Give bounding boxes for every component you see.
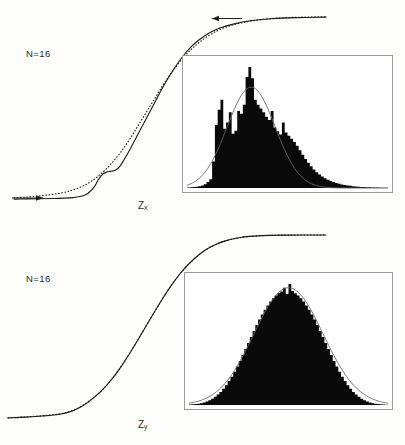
x-axis-label-zx: Zx — [138, 200, 148, 211]
inset-histogram-box-zx — [182, 55, 393, 193]
x-axis-label-subscript-zx: x — [144, 204, 148, 211]
histogram-zx — [183, 56, 392, 192]
sample-size-label-zx: N=16 — [26, 48, 51, 59]
x-axis-label-subscript-zy: y — [144, 423, 148, 430]
left-asymptote-arrow-icon — [12, 195, 43, 201]
figure-root: N=16 Zx N=16 Zy — [0, 0, 405, 445]
histogram-zy — [185, 273, 392, 409]
panel-zy: N=16 Zy — [0, 223, 405, 445]
upper-asymptote-arrow-icon — [212, 16, 242, 22]
histogram-bars-zx — [187, 67, 388, 188]
inset-histogram-box-zy — [184, 272, 393, 410]
histogram-bars-zy — [189, 284, 388, 405]
x-axis-label-zy: Zy — [138, 419, 148, 430]
sample-size-label-zy: N=16 — [26, 273, 51, 284]
panel-zx: N=16 Zx — [0, 0, 405, 222]
